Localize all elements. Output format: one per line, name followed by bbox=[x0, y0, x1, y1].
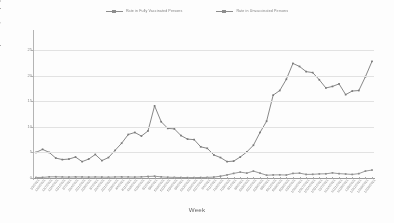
y-axis-title: Rate per 100,000 population bbox=[0, 0, 1, 62]
data-point-marker bbox=[81, 161, 83, 163]
legend-swatch-line-icon bbox=[106, 9, 123, 14]
data-point-marker bbox=[88, 158, 90, 160]
data-point-marker bbox=[272, 94, 274, 96]
legend-swatch-line-icon bbox=[216, 9, 233, 14]
data-point-marker bbox=[312, 72, 314, 74]
data-point-marker bbox=[220, 157, 222, 159]
data-point-marker bbox=[213, 154, 215, 156]
data-point-marker bbox=[226, 161, 228, 163]
chart-legend: Rate in Fully Vaccinated Persons Rate in… bbox=[0, 8, 394, 14]
data-point-marker bbox=[365, 170, 367, 172]
data-point-marker bbox=[180, 135, 182, 137]
data-point-marker bbox=[154, 105, 156, 107]
legend-item-fully-vaccinated[interactable]: Rate in Fully Vaccinated Persons bbox=[106, 8, 183, 14]
data-point-marker bbox=[286, 78, 288, 80]
gridline-y bbox=[34, 101, 374, 102]
y-tick-mark bbox=[31, 50, 34, 51]
data-point-marker bbox=[312, 173, 314, 175]
data-point-marker bbox=[299, 172, 301, 174]
data-point-marker bbox=[351, 90, 353, 92]
data-point-marker bbox=[345, 173, 347, 175]
data-point-marker bbox=[42, 149, 44, 151]
data-point-marker bbox=[272, 174, 274, 176]
data-point-marker bbox=[253, 170, 255, 172]
data-point-marker bbox=[286, 174, 288, 176]
x-axis-title: Week bbox=[0, 206, 394, 213]
data-point-marker bbox=[55, 157, 57, 159]
data-point-marker bbox=[253, 144, 255, 146]
data-point-marker bbox=[259, 132, 261, 134]
data-point-marker bbox=[174, 128, 176, 130]
y-tick-mark bbox=[31, 127, 34, 128]
data-point-marker bbox=[141, 135, 143, 137]
data-point-marker bbox=[75, 156, 77, 158]
data-point-marker bbox=[358, 90, 360, 92]
data-point-marker bbox=[193, 139, 195, 141]
data-point-marker bbox=[318, 173, 320, 175]
data-point-marker bbox=[187, 138, 189, 140]
legend-item-unvaccinated[interactable]: Rate in Unvaccinated Persons bbox=[216, 8, 288, 14]
data-point-marker bbox=[371, 61, 373, 63]
data-point-marker bbox=[292, 63, 294, 65]
data-point-marker bbox=[246, 172, 248, 174]
y-tick-mark bbox=[31, 76, 34, 77]
data-point-marker bbox=[325, 173, 327, 175]
y-tick-mark bbox=[31, 101, 34, 102]
data-point-marker bbox=[200, 146, 202, 148]
data-point-marker bbox=[338, 83, 340, 85]
data-point-marker bbox=[134, 132, 136, 134]
data-point-marker bbox=[351, 174, 353, 176]
data-point-marker bbox=[62, 159, 64, 161]
data-point-marker bbox=[206, 147, 208, 149]
data-point-marker bbox=[239, 171, 241, 173]
series-lines bbox=[34, 45, 374, 178]
data-point-marker bbox=[68, 158, 70, 160]
data-point-marker bbox=[259, 172, 261, 174]
data-point-marker bbox=[160, 121, 162, 123]
data-point-marker bbox=[299, 66, 301, 68]
gridline-y bbox=[34, 50, 374, 51]
data-point-marker bbox=[94, 154, 96, 156]
data-point-marker bbox=[371, 169, 373, 171]
data-point-marker bbox=[108, 157, 110, 159]
data-point-marker bbox=[147, 130, 149, 132]
data-point-marker bbox=[318, 79, 320, 81]
data-point-marker bbox=[121, 142, 123, 144]
gridline-y bbox=[34, 127, 374, 128]
gridline-y bbox=[34, 152, 374, 153]
y-tick-mark bbox=[31, 152, 34, 153]
data-point-marker bbox=[233, 160, 235, 162]
x-axis-tick-labels: 1/3/20211/10/20211/17/20211/24/20211/31/… bbox=[34, 179, 374, 207]
data-point-marker bbox=[279, 90, 281, 92]
data-point-marker bbox=[101, 160, 103, 162]
data-point-marker bbox=[345, 94, 347, 96]
data-point-marker bbox=[305, 174, 307, 176]
data-point-marker bbox=[305, 71, 307, 73]
data-point-marker bbox=[325, 87, 327, 89]
series-line-fully-vaccinated bbox=[36, 170, 372, 178]
data-point-marker bbox=[114, 150, 116, 152]
data-point-marker bbox=[239, 156, 241, 158]
data-point-marker bbox=[358, 173, 360, 175]
data-point-marker bbox=[279, 174, 281, 176]
chart-container: Rate in Fully Vaccinated Persons Rate in… bbox=[0, 0, 394, 223]
plot-area: 0510152025 bbox=[34, 45, 374, 178]
gridline-y bbox=[34, 76, 374, 77]
data-point-marker bbox=[266, 120, 268, 122]
data-point-marker bbox=[127, 134, 129, 136]
legend-label-fully-vaccinated: Rate in Fully Vaccinated Persons bbox=[126, 8, 183, 14]
data-point-marker bbox=[233, 173, 235, 175]
data-point-marker bbox=[332, 86, 334, 88]
data-point-marker bbox=[266, 174, 268, 176]
data-point-marker bbox=[226, 174, 228, 176]
data-point-marker bbox=[332, 172, 334, 174]
legend-label-unvaccinated: Rate in Unvaccinated Persons bbox=[236, 8, 288, 14]
data-point-marker bbox=[292, 173, 294, 175]
data-point-marker bbox=[338, 173, 340, 175]
